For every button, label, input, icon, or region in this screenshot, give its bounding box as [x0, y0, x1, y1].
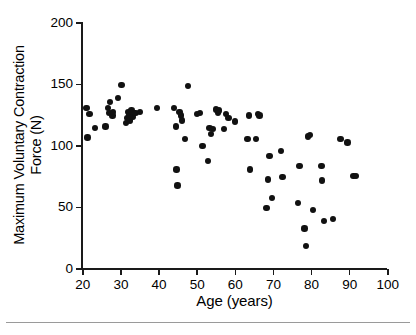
x-tick-30: 30: [120, 269, 122, 275]
scatter-chart-figure: Maximum Voluntary Contraction Force (N) …: [0, 0, 416, 335]
data-point: [307, 132, 313, 138]
y-tick-label-150: 150: [50, 76, 73, 91]
data-point: [246, 112, 252, 118]
x-tick-label-40: 40: [152, 277, 167, 292]
data-point: [232, 118, 238, 124]
data-point: [269, 195, 275, 201]
data-point: [185, 83, 191, 89]
y-tick-label-100: 100: [50, 138, 73, 153]
data-point: [92, 125, 98, 131]
data-point: [174, 182, 180, 188]
data-point: [310, 207, 316, 213]
x-tick-70: 70: [273, 269, 275, 275]
y-tick-150: 150: [76, 84, 82, 86]
y-tick-label-0: 0: [65, 261, 73, 276]
data-point: [296, 163, 302, 169]
x-tick-50: 50: [196, 269, 198, 275]
data-point: [182, 136, 188, 142]
x-tick-label-60: 60: [228, 277, 243, 292]
x-tick-80: 80: [311, 269, 313, 275]
data-point: [199, 143, 205, 149]
data-point: [173, 123, 179, 129]
data-point: [225, 115, 231, 121]
data-point: [303, 243, 309, 249]
data-point: [137, 109, 143, 115]
data-point: [353, 173, 359, 179]
data-point: [154, 105, 160, 111]
data-point: [86, 111, 92, 117]
data-point: [102, 123, 108, 129]
x-tick-60: 60: [235, 269, 237, 275]
data-point: [216, 107, 222, 113]
y-tick-100: 100: [76, 145, 82, 147]
y-axis-title-line-1: Maximum Voluntary Contraction: [11, 45, 28, 245]
y-axis-title-line-2: Force (N): [28, 45, 45, 245]
data-point: [256, 112, 262, 118]
data-point: [318, 163, 324, 169]
x-tick-100: 100: [387, 269, 389, 275]
x-tick-label-50: 50: [190, 277, 205, 292]
data-point: [197, 110, 203, 116]
data-point: [253, 136, 259, 142]
data-point: [173, 166, 179, 172]
y-tick-200: 200: [76, 22, 82, 24]
data-point: [210, 126, 216, 132]
data-point: [301, 225, 307, 231]
x-tick-40: 40: [158, 269, 160, 275]
data-point: [107, 99, 113, 105]
data-point: [266, 153, 272, 159]
x-tick-label-20: 20: [75, 277, 90, 292]
x-tick-label-100: 100: [377, 277, 400, 292]
data-point: [295, 200, 301, 206]
x-tick-label-90: 90: [342, 277, 357, 292]
data-point: [115, 95, 121, 101]
x-tick-label-70: 70: [266, 277, 281, 292]
data-point: [319, 177, 325, 183]
data-point: [265, 176, 271, 182]
data-point: [344, 139, 350, 145]
data-point: [337, 136, 343, 142]
data-point: [118, 82, 124, 88]
data-point: [279, 174, 285, 180]
data-point: [84, 134, 90, 140]
y-tick-label-50: 50: [58, 199, 73, 214]
x-tick-label-80: 80: [304, 277, 319, 292]
footer-divider: [6, 322, 410, 323]
data-point: [321, 218, 327, 224]
data-point: [330, 216, 336, 222]
x-tick-90: 90: [349, 269, 351, 275]
plot-area: 050100150200 2030405060708090100: [82, 22, 387, 268]
data-point: [221, 126, 227, 132]
data-point: [247, 166, 253, 172]
data-point: [278, 148, 284, 154]
y-tick-label-200: 200: [50, 15, 73, 30]
x-tick-20: 20: [82, 269, 84, 275]
data-point: [244, 136, 250, 142]
data-point: [263, 205, 269, 211]
y-tick-50: 50: [76, 207, 82, 209]
y-axis-title: Maximum Voluntary Contraction Force (N): [0, 0, 56, 290]
x-tick-label-30: 30: [113, 277, 128, 292]
data-point: [179, 117, 185, 123]
data-point: [205, 158, 211, 164]
x-axis-title: Age (years): [82, 292, 387, 309]
